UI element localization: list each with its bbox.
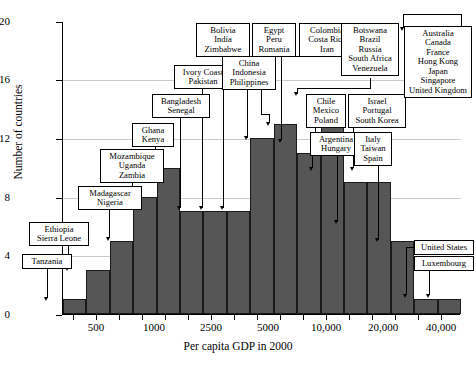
callout-line: Sierra Leone — [33, 234, 86, 244]
arrow-ivorycoast — [199, 206, 203, 210]
arrow-egypt — [266, 122, 270, 126]
histogram-bar — [86, 270, 109, 314]
callout-line: Poland — [310, 116, 343, 126]
arrow-luxembourg — [426, 294, 430, 298]
x-tickmark-13 — [372, 315, 373, 320]
histogram-bar — [297, 153, 320, 314]
arrow-china — [244, 136, 248, 140]
histogram-bar — [157, 168, 180, 315]
histogram-bar — [250, 138, 273, 314]
callout-egypt: Egypt Peru Romania — [252, 23, 296, 57]
arrow-botswana — [294, 92, 298, 96]
callout-line: Nigeria — [82, 198, 139, 208]
histogram-bar — [391, 241, 414, 314]
arrow-israel — [350, 167, 354, 171]
callout-line: United States — [418, 243, 471, 253]
x-tickmark-14 — [395, 315, 396, 320]
x-tick-5000: 5000 — [257, 321, 279, 333]
callout-ghana: Ghana Kenya — [132, 123, 174, 147]
arrow-chile — [309, 167, 313, 171]
callout-line: Senegal — [156, 106, 207, 116]
x-tickmark-15 — [418, 315, 419, 320]
histogram-figure: Number of countries 20 16 12 8 4 0 500 1… — [0, 0, 476, 378]
y-tick-12: 12 — [0, 133, 10, 144]
callout-tanzania: Tanzania — [22, 254, 72, 269]
arrow-colombia — [278, 139, 282, 143]
arrow-bolivia — [220, 206, 224, 210]
leader-italy — [378, 165, 379, 240]
histogram-bar — [344, 182, 367, 314]
histogram-bar — [110, 241, 133, 314]
x-tick-2500: 2500 — [200, 321, 222, 333]
x-tickmark-10 — [303, 315, 304, 320]
callout-chile: Chile Mexico Poland — [306, 94, 346, 128]
leader-lux-v — [429, 269, 430, 295]
y-tick-20: 20 — [0, 16, 10, 27]
x-tickmark-9 — [280, 315, 281, 320]
x-tick-20000: 20,000 — [368, 321, 398, 333]
x-tickmark-2 — [119, 315, 120, 320]
x-tickmark-6 — [211, 315, 212, 320]
x-tickmark-8 — [257, 315, 258, 320]
x-tick-10000: 10,000 — [311, 321, 341, 333]
arrow-bangladesh — [177, 206, 181, 210]
histogram-bar — [180, 211, 203, 314]
x-axis-label: Per capita GDP in 2000 — [0, 340, 476, 352]
arrow-madagascar — [106, 237, 110, 241]
callout-richcountries: Australia Canada France Hong Kong Japan … — [404, 26, 472, 98]
histogram-bar — [274, 124, 297, 314]
x-tickmark-12 — [349, 315, 350, 320]
arrow-usa — [403, 294, 407, 298]
callout-unitedstates: United States — [414, 240, 474, 255]
y-tick-8: 8 — [0, 192, 10, 203]
leader-botswana-h — [297, 88, 371, 89]
histogram-bar — [203, 211, 226, 314]
x-tickmark-5 — [188, 315, 189, 320]
x-tickmark-4 — [165, 315, 166, 320]
x-tickmark-7 — [234, 315, 235, 320]
arrow-tanzania — [44, 297, 48, 301]
x-tickmark-3 — [142, 315, 143, 320]
histogram-bar — [367, 182, 390, 314]
x-tickmark-16 — [441, 315, 442, 320]
leader-usa-v — [406, 247, 407, 295]
callout-madagascar: Madagascar Nigeria — [78, 186, 142, 210]
callout-line: Luxembourg — [418, 259, 471, 269]
callout-line: Zambia — [104, 171, 161, 181]
x-tickmark-1 — [96, 315, 97, 320]
callout-line: Hungary — [314, 144, 359, 154]
callout-line: Pakistan — [178, 77, 229, 87]
callout-line: Tanzania — [26, 257, 69, 267]
x-tick-1000: 1000 — [143, 321, 165, 333]
leader-bangladesh — [180, 117, 181, 208]
histogram-bar — [227, 211, 250, 314]
callout-mozambique: Mozambique Uganda Zambia — [100, 149, 164, 183]
y-tick-16: 16 — [0, 74, 10, 85]
callout-line: Kenya — [136, 135, 171, 145]
leader-rich-h — [403, 14, 462, 15]
callout-line: Romania — [256, 45, 293, 55]
histogram-bar — [414, 299, 437, 314]
callout-line: South Korea — [352, 116, 403, 126]
callout-line: Philippines — [226, 78, 273, 88]
y-tickmark-0 — [56, 315, 62, 316]
callout-china: China Indonesia Philippines — [222, 56, 276, 90]
callout-bangladesh: Bangladesh Senegal — [152, 94, 210, 118]
arrow-italy — [375, 238, 379, 242]
callout-italy: Italy Taiwan Spain — [354, 132, 392, 166]
leader-madagascar — [109, 209, 110, 238]
callout-line: Zimbabwe — [200, 45, 247, 55]
callout-israel: Israel Portugal South Korea — [348, 94, 406, 128]
y-tick-4: 4 — [0, 250, 10, 261]
callout-line: Venezuela — [345, 64, 396, 74]
callout-ethiopia: Ethiopia Sierra Leone — [29, 222, 89, 246]
callout-botswana: Botswana Brazil Russia South Africa Vene… — [341, 23, 399, 76]
leader-argentina — [337, 155, 338, 222]
histogram-bar — [438, 299, 461, 314]
leader-rich-v1 — [461, 14, 462, 26]
y-tick-0: 0 — [0, 309, 10, 320]
callout-bolivia: Bolivia India Zimbabwe — [196, 23, 250, 57]
x-tickmark-0 — [73, 315, 74, 320]
arrow-argentina — [334, 220, 338, 224]
callout-line: United Kingdom — [408, 86, 469, 96]
